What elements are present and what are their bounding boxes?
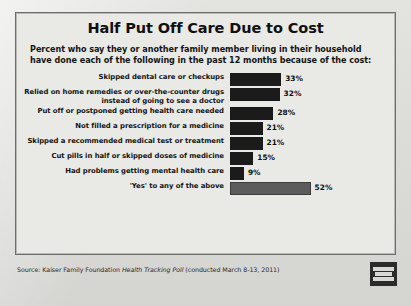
logo-bar-2 <box>375 272 392 276</box>
bar-track: 28% <box>230 107 395 120</box>
chart-row: Skipped dental care or checkups33% <box>16 73 395 86</box>
source-publication: Health Tracking Poll <box>122 266 183 273</box>
bar-value-label: 52% <box>315 183 333 192</box>
bar <box>230 73 281 86</box>
bar-chart: Skipped dental care or checkups33%Relied… <box>16 73 395 197</box>
chart-row: Relied on home remedies or over-the-coun… <box>16 88 395 105</box>
bar-track: 33% <box>230 73 395 86</box>
logo-bar-3 <box>373 277 394 281</box>
source-prefix: Source: Kaiser Family Foundation <box>17 266 122 273</box>
bar-track: 15% <box>230 152 395 165</box>
chart-subtitle: Percent who say they or another family m… <box>30 44 381 67</box>
bar-track: 52% <box>230 182 395 195</box>
bar-value-label: 21% <box>267 138 285 147</box>
bar-value-label: 9% <box>248 168 261 177</box>
chart-row: 'Yes' to any of the above52% <box>16 182 395 195</box>
bar-value-label: 15% <box>257 153 275 162</box>
bar-value-label: 32% <box>284 89 302 98</box>
bar-category-label: 'Yes' to any of the above <box>16 182 230 191</box>
source-suffix: (conducted March 8-13, 2011) <box>183 266 279 273</box>
chart-row: Not filled a prescription for a medicine… <box>16 122 395 135</box>
bar-category-label: Not filled a prescription for a medicine <box>16 122 230 131</box>
chart-row: Put off or postponed getting health care… <box>16 107 395 120</box>
bar-category-label: Relied on home remedies or over-the-coun… <box>16 88 230 105</box>
chart-frame: Half Put Off Care Due to Cost Percent wh… <box>15 12 396 255</box>
bar-track: 9% <box>230 167 395 180</box>
bar-value-label: 21% <box>267 123 285 132</box>
logo-bar-1 <box>373 267 394 271</box>
bar-value-label: 33% <box>285 74 303 83</box>
poster-background: Half Put Off Care Due to Cost Percent wh… <box>0 0 411 306</box>
bar <box>230 152 253 165</box>
chart-row: Cut pills in half or skipped doses of me… <box>16 152 395 165</box>
bar <box>230 107 273 120</box>
bar-value-label: 28% <box>277 108 295 117</box>
bar-category-label: Had problems getting mental health care <box>16 167 230 176</box>
bar-category-label: Put off or postponed getting health care… <box>16 107 230 116</box>
page-title: Half Put Off Care Due to Cost <box>16 20 395 36</box>
bar-category-label: Cut pills in half or skipped doses of me… <box>16 152 230 161</box>
bar-track: 21% <box>230 137 395 150</box>
source-note: Source: Kaiser Family Foundation Health … <box>17 266 279 273</box>
bar-highlight <box>230 182 311 195</box>
bar <box>230 137 263 150</box>
bar-category-label: Skipped dental care or checkups <box>16 73 230 82</box>
chart-row: Skipped a recommended medical test or tr… <box>16 137 395 150</box>
chart-row: Had problems getting mental health care9… <box>16 167 395 180</box>
bar <box>230 122 263 135</box>
bar-track: 32% <box>230 88 395 101</box>
kaiser-family-foundation-logo <box>370 262 397 286</box>
bar <box>230 167 244 180</box>
bar <box>230 88 280 101</box>
bar-category-label: Skipped a recommended medical test or tr… <box>16 137 230 146</box>
bar-track: 21% <box>230 122 395 135</box>
